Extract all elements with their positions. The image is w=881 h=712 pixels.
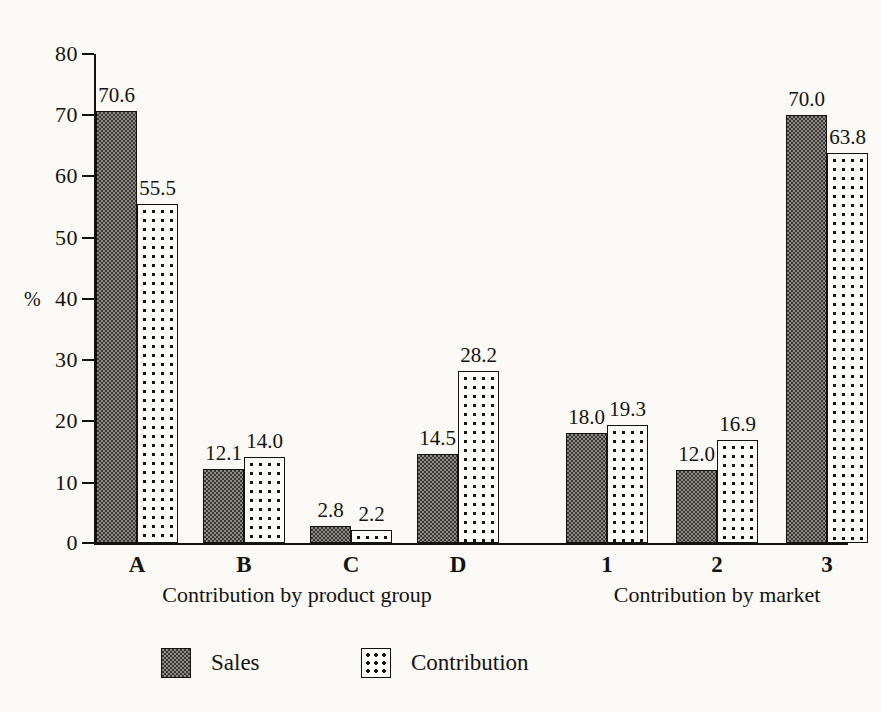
x-tick-label-2: 2: [687, 552, 747, 578]
value-label-contribution-A: 55.5: [127, 178, 188, 199]
x-tick-label-B: B: [214, 552, 274, 578]
bar-sales-3: [786, 115, 827, 543]
chart-page: 80 70 60 50 40 30 20 10 0 %: [0, 0, 881, 712]
value-label-contribution-2: 16.9: [707, 414, 768, 435]
bar-chart: 80 70 60 50 40 30 20 10 0 %: [0, 0, 881, 712]
bar-contribution-C: [351, 530, 392, 543]
bar-contribution-D: [458, 371, 499, 543]
value-label-contribution-B: 14.0: [234, 431, 295, 452]
x-tick-label-D: D: [428, 552, 488, 578]
x-axis-line: [94, 543, 848, 545]
bar-sales-C: [310, 526, 351, 543]
legend-swatch-contribution-icon: [361, 648, 391, 678]
value-label-contribution-D: 28.2: [448, 345, 509, 366]
bar-contribution-1: [607, 425, 648, 543]
value-label-contribution-3: 63.8: [817, 127, 878, 148]
value-label-contribution-1: 19.3: [597, 399, 658, 420]
value-label-sales-2: 12.0: [666, 444, 727, 465]
x-tick-label-A: A: [107, 552, 167, 578]
value-label-sales-3: 70.0: [776, 89, 837, 110]
legend-swatch-sales-icon: [161, 648, 191, 678]
section-caption-product-group: Contribution by product group: [102, 582, 492, 608]
bars-layer: [0, 0, 881, 543]
x-tick-label-1: 1: [577, 552, 637, 578]
value-label-sales-D: 14.5: [407, 428, 468, 449]
chart-legend: Sales Contribution: [0, 648, 881, 698]
x-tick-label-3: 3: [797, 552, 857, 578]
bar-contribution-A: [137, 204, 178, 543]
bar-sales-2: [676, 470, 717, 543]
bar-sales-1: [566, 433, 607, 543]
bar-sales-B: [203, 469, 244, 543]
bar-sales-D: [417, 454, 458, 543]
legend-label-contribution: Contribution: [411, 650, 529, 676]
section-caption-market: Contribution by market: [567, 582, 867, 608]
bar-contribution-B: [244, 457, 285, 543]
value-label-sales-A: 70.6: [86, 85, 147, 106]
x-tick-label-C: C: [321, 552, 381, 578]
bar-contribution-3: [827, 153, 868, 543]
legend-item-sales: Sales: [161, 648, 260, 678]
bar-sales-A: [96, 111, 137, 543]
value-label-contribution-C: 2.2: [341, 504, 402, 525]
legend-item-contribution: Contribution: [361, 648, 529, 678]
legend-label-sales: Sales: [211, 650, 260, 676]
